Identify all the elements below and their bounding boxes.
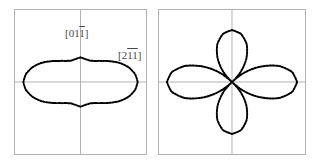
direction-label-vertical-left: [011] [65, 28, 88, 39]
label-left-horiz-prefix: [2 [118, 49, 127, 61]
label-left-horiz-suffix: ] [138, 49, 142, 61]
polar-plot-panel-right: [011] [211] [158, 9, 306, 155]
label-left-horiz-overbar: 11 [127, 49, 138, 61]
polar-anisotropy-figure: [011] [211] [011] [211] [0, 0, 318, 162]
direction-label-horizontal-left: [211] [118, 50, 141, 61]
right-polar-svg [159, 10, 305, 154]
polar-plot-panel-left: [011] [211] [14, 9, 147, 155]
label-left-vert-prefix: [01 [65, 27, 79, 39]
label-left-vert-suffix: ] [85, 27, 89, 39]
